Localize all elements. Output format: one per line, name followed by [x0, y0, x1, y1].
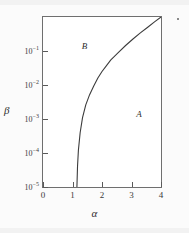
x-tick-label-1: 1: [63, 190, 83, 200]
plot-area: [42, 16, 162, 188]
x-tick-2: [102, 182, 103, 187]
y-tick-label-−2: 10−2: [13, 79, 39, 90]
region-label-b: B: [82, 41, 88, 51]
y-tick-−2: [43, 85, 48, 86]
y-tick-label-−1: 10−1: [13, 45, 39, 56]
y-tick-−4: [43, 153, 48, 154]
y-tick-label-−3: 10−3: [13, 113, 39, 124]
top-margin-band: [0, 0, 189, 5]
stray-mark: [177, 18, 179, 20]
x-axis-title: α: [0, 207, 189, 219]
bottom-margin-band: [0, 228, 189, 233]
figure-container: 01234 10−110−210−310−410−5 B A α β: [0, 0, 189, 233]
y-tick-label-−4: 10−4: [13, 147, 39, 158]
y-tick-label-−5: 10−5: [13, 181, 39, 192]
x-tick-1: [73, 182, 74, 187]
x-tick-label-3: 3: [122, 190, 142, 200]
phase-boundary-curve: [43, 17, 161, 187]
x-tick-label-4: 4: [151, 190, 171, 200]
y-axis-title: β: [4, 104, 9, 116]
y-tick-−1: [43, 51, 48, 52]
x-tick-label-2: 2: [92, 190, 112, 200]
x-tick-4: [161, 182, 162, 187]
y-tick-−3: [43, 119, 48, 120]
y-tick-−5: [43, 187, 48, 188]
region-label-a: A: [136, 109, 142, 119]
x-tick-3: [132, 182, 133, 187]
